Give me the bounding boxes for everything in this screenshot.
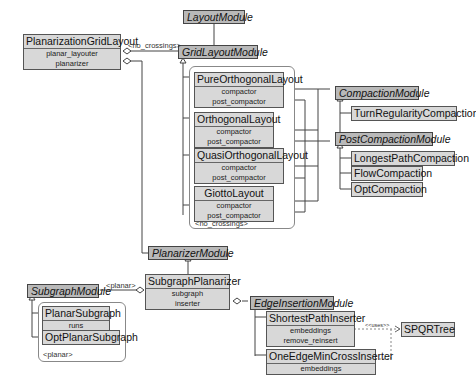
post-compaction-module[interactable]: PostCompactionModule — [335, 132, 433, 146]
attr-compactor: compactor — [195, 127, 273, 137]
class-name: PlanarizationGridLayout — [24, 35, 120, 49]
attr-embeddings: embeddings — [267, 364, 375, 374]
grid-layout-module[interactable]: GridLayoutModule — [178, 45, 258, 59]
attr-embeddings: embeddings — [267, 326, 354, 336]
planarizer-module[interactable]: PlanarizerModule — [148, 246, 228, 260]
planar-group-label: <planar> — [43, 350, 73, 359]
class-one-edge-min-cross-inserter[interactable]: OneEdgeMinCrossInserter embeddings — [266, 349, 376, 375]
class-name: OptPlanarSubgraph — [43, 331, 119, 344]
class-name: TurnRegularityCompaction — [352, 107, 456, 120]
class-name: PureOrthogonalLayout — [195, 73, 283, 87]
class-name: OptCompaction — [352, 183, 422, 196]
class-opt-compaction[interactable]: OptCompaction — [351, 182, 423, 197]
attr-planar-layouter: planar_layouter — [24, 49, 120, 59]
class-planarization-grid-layout[interactable]: PlanarizationGridLayout planar_layouter … — [23, 34, 121, 70]
attr-inserter: inserter — [146, 299, 229, 309]
class-spqr-tree[interactable]: SPQRTree — [401, 322, 455, 337]
class-pure-orthogonal-layout[interactable]: PureOrthogonalLayout compactor post_comp… — [194, 72, 284, 108]
class-name: GiottoLayout — [195, 187, 273, 201]
class-name: OneEdgeMinCrossInserter — [267, 350, 375, 364]
attr-compactor: compactor — [195, 87, 283, 97]
class-name: QuasiOrthogonalLayout — [195, 149, 283, 163]
attr-planarizer: planarizer — [24, 59, 120, 69]
class-opt-planar-subgraph[interactable]: OptPlanarSubgraph — [42, 330, 120, 345]
class-name: SPQRTree — [402, 323, 454, 336]
no-crossings-group-label: <no_crossings> — [195, 219, 248, 228]
attr-remove-reinsert: remove_reinsert — [267, 336, 354, 346]
attr-subgraph: subgraph — [146, 289, 229, 299]
class-name: SubgraphPlanarizer — [146, 275, 229, 289]
class-subgraph-planarizer[interactable]: SubgraphPlanarizer subgraph inserter — [145, 274, 230, 310]
planar-edge-label: <planar> — [106, 281, 136, 290]
subgraph-module[interactable]: SubgraphModule — [27, 284, 99, 298]
edge-insertion-module[interactable]: EdgeInsertionModule — [250, 296, 334, 310]
class-name: ShortestPathInserter — [267, 312, 354, 326]
attr-post-compactor: post_compactor — [195, 97, 283, 107]
layout-module[interactable]: LayoutModule — [183, 10, 245, 24]
class-quasi-orthogonal-layout[interactable]: QuasiOrthogonalLayout compactor post_com… — [194, 148, 284, 184]
class-turn-regularity-compaction[interactable]: TurnRegularityCompaction — [351, 106, 457, 121]
uml-class-diagram: LayoutModule GridLayoutModule Compaction… — [0, 0, 476, 391]
class-name: PlanarSubgraph — [43, 307, 109, 321]
class-orthogonal-layout[interactable]: OrthogonalLayout compactor post_compacto… — [194, 112, 274, 148]
class-name: OrthogonalLayout — [195, 113, 273, 127]
no-crossings-edge-label: <no_crossings> — [128, 41, 181, 50]
class-shortest-path-inserter[interactable]: ShortestPathInserter embeddings remove_r… — [266, 311, 355, 347]
class-name: FlowCompaction — [352, 167, 422, 180]
class-planar-subgraph[interactable]: PlanarSubgraph runs — [42, 306, 110, 332]
uses-label: <<uses>> — [365, 322, 389, 328]
attr-post-compactor: post_compactor — [195, 137, 273, 147]
compaction-module[interactable]: CompactionModule — [335, 86, 419, 100]
class-longest-path-compaction[interactable]: LongestPathCompaction — [351, 151, 455, 166]
class-name: LongestPathCompaction — [352, 152, 454, 165]
class-flow-compaction[interactable]: FlowCompaction — [351, 166, 423, 181]
class-giotto-layout[interactable]: GiottoLayout compactor post_compactor — [194, 186, 274, 222]
attr-compactor: compactor — [195, 163, 283, 173]
attr-post-compactor: post_compactor — [195, 173, 283, 183]
attr-compactor: compactor — [195, 201, 273, 211]
